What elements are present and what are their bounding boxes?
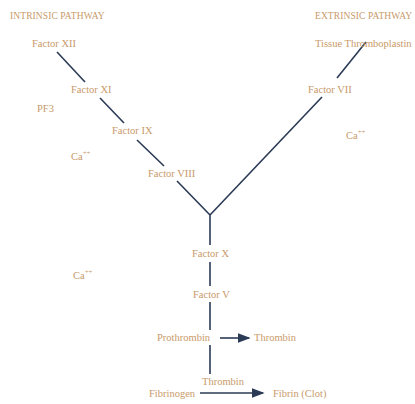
calcium-common-label: Ca++ [73,266,93,282]
factor-x-label: Factor X [192,248,229,260]
prothrombin-label: Prothrombin [157,332,210,344]
factor-v-label: Factor V [193,289,230,301]
factor-xii-label: Factor XII [32,38,76,50]
factor-viii-label: Factor VIII [148,168,195,180]
coagulation-cascade-diagram: INTRINSIC PATHWAY EXTRINSIC PATHWAY Fact… [0,0,415,404]
fibrinogen-label: Fibrinogen [149,388,195,400]
pf3-label: PF3 [37,103,54,115]
thrombin-product-label: Thrombin [254,332,296,344]
tissue-thromboplastin-label: Tissue Thromboplastin [315,38,412,50]
fibrin-clot-label: Fibrin (Clot) [273,388,326,400]
thrombin-catalyst-label: Thrombin [202,376,244,388]
calcium-extrinsic-label: Ca++ [346,126,366,142]
factor-xi-label: Factor XI [71,84,112,96]
extrinsic-pathway-title: EXTRINSIC PATHWAY [315,10,412,22]
calcium-intrinsic-label: Ca++ [71,147,91,163]
intrinsic-pathway-title: INTRINSIC PATHWAY [10,10,105,22]
factor-ix-label: Factor IX [112,125,153,137]
factor-vii-label: Factor VII [308,84,352,96]
